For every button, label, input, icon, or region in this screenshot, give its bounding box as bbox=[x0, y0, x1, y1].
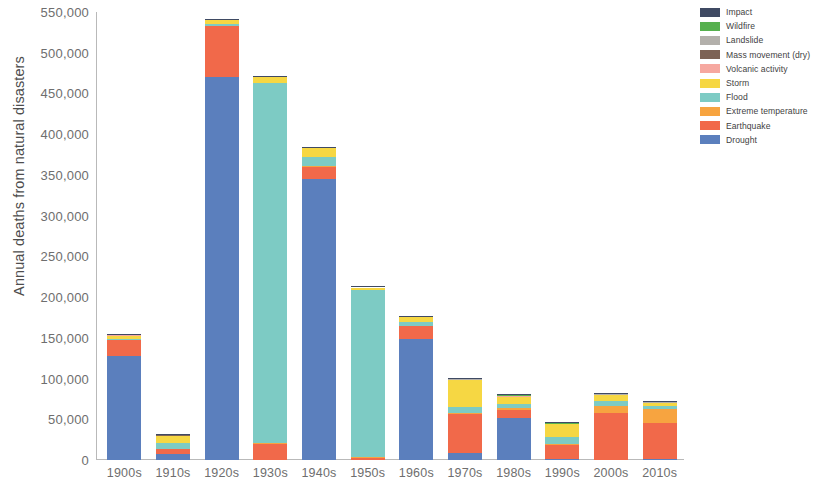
bar-segment[interactable] bbox=[448, 453, 482, 460]
legend-color-swatch bbox=[700, 8, 720, 17]
bar-segment[interactable] bbox=[643, 423, 677, 459]
bar-segment[interactable] bbox=[594, 395, 628, 401]
bar-segment[interactable] bbox=[156, 454, 190, 460]
x-axis-tick-label: 1940s bbox=[301, 466, 336, 480]
bar-segment[interactable] bbox=[643, 406, 677, 410]
bar-group[interactable]: 1930s bbox=[253, 12, 287, 460]
legend-item[interactable]: Wildfire bbox=[700, 19, 833, 33]
bar-stack bbox=[497, 395, 531, 460]
bar-segment[interactable] bbox=[107, 340, 141, 355]
bar-group[interactable]: 1980s bbox=[497, 12, 531, 460]
bar-segment[interactable] bbox=[351, 288, 385, 291]
legend-color-swatch bbox=[700, 135, 720, 144]
bar-group[interactable]: 1940s bbox=[302, 12, 336, 460]
bar-stack bbox=[253, 77, 287, 460]
bar-segment[interactable] bbox=[399, 322, 433, 326]
bar-segment[interactable] bbox=[545, 424, 579, 437]
x-axis-tick-label: 1960s bbox=[399, 466, 434, 480]
bar-segment[interactable] bbox=[497, 394, 531, 395]
bar-segment[interactable] bbox=[545, 459, 579, 460]
bar-segment[interactable] bbox=[545, 444, 579, 445]
bar-segment[interactable] bbox=[594, 406, 628, 413]
bar-group[interactable]: 1920s bbox=[205, 12, 239, 460]
bar-segment[interactable] bbox=[643, 459, 677, 460]
bar-group[interactable]: 2000s bbox=[594, 12, 628, 460]
legend-item[interactable]: Mass movement (dry) bbox=[700, 48, 833, 62]
bar-segment[interactable] bbox=[302, 157, 336, 167]
bar-segment[interactable] bbox=[448, 380, 482, 407]
bar-segment[interactable] bbox=[205, 24, 239, 25]
bar-segment[interactable] bbox=[448, 407, 482, 412]
bar-segment[interactable] bbox=[399, 317, 433, 321]
bar-segment[interactable] bbox=[107, 336, 141, 339]
bar-segment[interactable] bbox=[253, 83, 287, 443]
bar-segment[interactable] bbox=[594, 393, 628, 394]
y-axis-tick-label: 350,000 bbox=[41, 167, 89, 182]
bar-segment[interactable] bbox=[253, 444, 287, 460]
bar-stack bbox=[545, 423, 579, 460]
bar-segment[interactable] bbox=[156, 436, 190, 443]
bar-segment[interactable] bbox=[545, 445, 579, 458]
bar-segment[interactable] bbox=[448, 378, 482, 379]
bar-segment[interactable] bbox=[205, 77, 239, 460]
bar-group[interactable]: 1910s bbox=[156, 12, 190, 460]
legend-item[interactable]: Drought bbox=[700, 133, 833, 147]
bar-group[interactable]: 1950s bbox=[351, 12, 385, 460]
bar-segment[interactable] bbox=[107, 356, 141, 460]
legend-item[interactable]: Volcanic activity bbox=[700, 62, 833, 76]
bar-segment[interactable] bbox=[497, 404, 531, 408]
bar-segment[interactable] bbox=[302, 167, 336, 179]
bar-segment[interactable] bbox=[448, 414, 482, 453]
bar-segment[interactable] bbox=[399, 316, 433, 317]
bar-segment[interactable] bbox=[497, 410, 531, 419]
legend-item[interactable]: Earthquake bbox=[700, 119, 833, 133]
bar-segment[interactable] bbox=[594, 413, 628, 459]
bar-segment[interactable] bbox=[643, 403, 677, 406]
bar-segment[interactable] bbox=[253, 76, 287, 77]
legend-item-label: Impact bbox=[726, 7, 752, 17]
bar-segment[interactable] bbox=[205, 26, 239, 77]
bar-segment[interactable] bbox=[497, 397, 531, 404]
bar-segment[interactable] bbox=[302, 147, 336, 148]
bar-segment[interactable] bbox=[351, 290, 385, 457]
bar-group[interactable]: 2010s bbox=[643, 12, 677, 460]
bar-segment[interactable] bbox=[643, 409, 677, 423]
bar-segment[interactable] bbox=[253, 77, 287, 83]
bar-group[interactable]: 1990s bbox=[545, 12, 579, 460]
bar-segment[interactable] bbox=[156, 434, 190, 435]
bar-segment[interactable] bbox=[594, 401, 628, 405]
bar-segment[interactable] bbox=[107, 334, 141, 335]
bar-segment[interactable] bbox=[497, 408, 531, 409]
bar-segment[interactable] bbox=[351, 458, 385, 460]
bar-segment[interactable] bbox=[205, 19, 239, 20]
bar-segment[interactable] bbox=[545, 422, 579, 423]
legend-color-swatch bbox=[700, 22, 720, 31]
bar-segment[interactable] bbox=[497, 418, 531, 460]
bar-segment[interactable] bbox=[205, 20, 239, 24]
legend-item[interactable]: Flood bbox=[700, 90, 833, 104]
legend-item-label: Storm bbox=[726, 78, 749, 88]
plot-area: 550,000500,000450,000400,000350,000300,0… bbox=[96, 12, 680, 460]
bar-segment[interactable] bbox=[351, 286, 385, 287]
bar-group[interactable]: 1970s bbox=[448, 12, 482, 460]
legend-item[interactable]: Extreme temperature bbox=[700, 104, 833, 118]
bar-segment[interactable] bbox=[156, 443, 190, 450]
bar-segment[interactable] bbox=[545, 437, 579, 444]
bar-segment[interactable] bbox=[302, 148, 336, 156]
bar-segment[interactable] bbox=[643, 401, 677, 402]
bar-stack bbox=[643, 402, 677, 460]
legend-item[interactable]: Impact bbox=[700, 5, 833, 19]
legend-item[interactable]: Storm bbox=[700, 76, 833, 90]
legend-item-label: Drought bbox=[726, 135, 757, 145]
y-axis-tick-label: 450,000 bbox=[41, 86, 89, 101]
bar-segment[interactable] bbox=[399, 339, 433, 460]
bar-segment[interactable] bbox=[302, 179, 336, 460]
bar-segment[interactable] bbox=[448, 413, 482, 414]
bar-group[interactable]: 1960s bbox=[399, 12, 433, 460]
bar-segment[interactable] bbox=[156, 449, 190, 453]
y-axis-tick-label: 0 bbox=[82, 453, 89, 468]
x-axis-tick-label: 1990s bbox=[545, 466, 580, 480]
bar-segment[interactable] bbox=[399, 326, 433, 339]
bar-group[interactable]: 1900s bbox=[107, 12, 141, 460]
legend-item[interactable]: Landslide bbox=[700, 33, 833, 47]
